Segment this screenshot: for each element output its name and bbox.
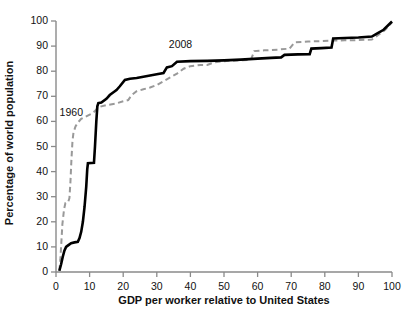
series-line-2008: [59, 22, 392, 271]
plot-area: [0, 0, 405, 311]
series-paths: [59, 22, 392, 271]
chart-container: Percentage of world population GDP per w…: [0, 0, 405, 311]
axis-lines: [56, 21, 392, 272]
